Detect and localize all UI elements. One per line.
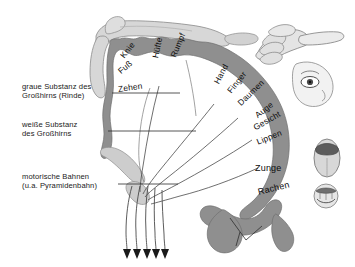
mouth-throat-illustration xyxy=(314,184,338,208)
annotation-motor-tracts-line1: motorische Bahnen xyxy=(22,172,97,181)
cortex-fold-lines xyxy=(139,60,196,182)
annotation-motor-tracts-line2: (u.a. Pyramidenbahn) xyxy=(22,181,97,190)
tongue-illustration xyxy=(314,139,340,177)
annotation-white-matter-line2: des Großhirns xyxy=(22,129,77,138)
annotation-white-matter: weiße Substanz des Großhirns xyxy=(22,120,77,139)
cortex-label-zunge: Zunge xyxy=(255,163,282,173)
tract-arrowheads xyxy=(123,249,169,259)
face-eye-illustration xyxy=(292,62,333,107)
annotation-grey-matter-line2: Großhirns (Rinde) xyxy=(22,91,91,100)
cerebral-cortex-grey-matter xyxy=(101,37,294,253)
annotation-white-matter-line1: weiße Substanz xyxy=(22,120,77,129)
annotation-grey-matter-line1: graue Substanz des xyxy=(22,82,91,91)
pointing-hand-illustration xyxy=(256,25,344,65)
annotation-motor-tracts: motorische Bahnen (u.a. Pyramidenbahn) xyxy=(22,172,97,191)
motor-homunculus-figure: graue Substanz des Großhirns (Rinde) wei… xyxy=(0,0,355,267)
annotation-grey-matter: graue Substanz des Großhirns (Rinde) xyxy=(22,82,91,101)
